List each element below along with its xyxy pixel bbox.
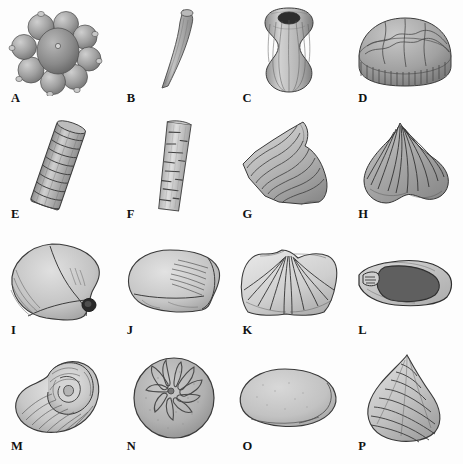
specimen-cell-b: B [116,0,232,116]
conical-ridged-shell-icon [347,348,463,448]
specimen-cell-d: D [347,0,463,116]
curved-tapering-tube-icon [116,0,232,100]
winged-radial-brachiopod-icon [232,232,348,332]
specimen-label-j: J [127,324,133,337]
specimen-cell-n: N [116,348,232,464]
specimen-cell-m: M [0,348,116,464]
specimen-label-p: P [358,440,366,453]
rounded-bivalve-valve-icon [0,232,116,332]
specimen-label-k: K [243,324,253,337]
specimen-label-c: C [243,92,252,105]
specimen-cell-j: J [116,232,232,348]
specimen-label-h: H [358,208,368,221]
smooth-oval-valve-icon [232,348,348,448]
striate-cylindrical-stem-icon [116,116,232,216]
specimen-label-g: G [243,208,253,221]
specimen-label-a: A [11,92,20,105]
domed-plated-test-icon [347,0,463,100]
specimen-cell-o: O [232,348,348,464]
specimen-label-m: M [11,440,23,453]
specimen-label-o: O [243,440,253,453]
specimen-label-i: I [11,324,16,337]
specimen-cell-e: E [0,116,116,232]
horn-shaped-ridged-shell-icon [232,116,348,216]
sectioned-wedge-shell-icon [347,232,463,332]
specimen-cell-l: L [347,232,463,348]
specimen-label-b: B [127,92,136,105]
oval-ribbed-bivalve-icon [116,232,232,332]
specimen-cell-c: C [232,0,348,116]
specimen-cell-h: H [347,116,463,232]
specimen-cell-k: K [232,232,348,348]
specimen-label-n: N [127,440,136,453]
specimen-cell-p: P [347,348,463,464]
sphere-cluster-coral-icon [0,0,116,100]
specimen-label-e: E [11,208,20,221]
specimen-label-d: D [358,92,367,105]
ringed-columnal-stem-icon [0,116,116,216]
specimen-label-f: F [127,208,135,221]
specimen-cell-a: A [0,0,116,116]
petalled-echinoid-test-icon [116,348,232,448]
fan-ribbed-brachiopod-icon [347,116,463,216]
specimen-cell-i: I [0,232,116,348]
specimen-cell-f: F [116,116,232,232]
specimen-cell-g: G [232,116,348,232]
fossil-specimen-plate: A B [0,0,463,464]
specimen-label-l: L [358,324,367,337]
vase-shaped-calyx-icon [232,0,348,100]
coiled-gastropod-icon [0,348,116,448]
